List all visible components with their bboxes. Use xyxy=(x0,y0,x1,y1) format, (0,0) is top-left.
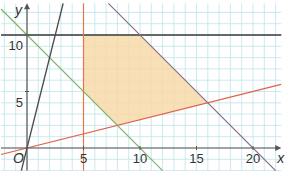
y-tick-label: 10 xyxy=(9,38,23,53)
x-tick-label: 10 xyxy=(133,151,147,166)
x-tick-label: 15 xyxy=(189,151,203,166)
constraint-line xyxy=(21,3,63,170)
origin-label: O xyxy=(13,150,24,166)
x-tick-label: 5 xyxy=(80,151,87,166)
y-tick-label: 5 xyxy=(16,95,23,110)
y-axis-arrow-icon xyxy=(24,3,30,9)
linear-programming-graph: x y O 5101520510 xyxy=(0,0,287,171)
y-axis-label: y xyxy=(14,2,23,18)
x-axis-label: x xyxy=(276,150,285,166)
x-tick-label: 20 xyxy=(246,151,260,166)
